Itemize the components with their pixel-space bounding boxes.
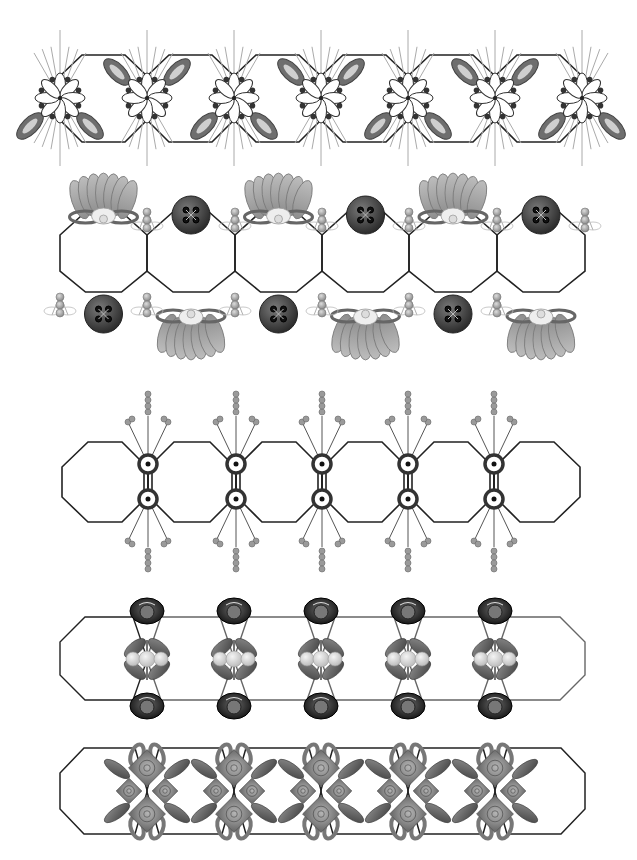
spray-bead xyxy=(389,416,395,422)
spray-bead xyxy=(233,548,239,554)
dot xyxy=(311,77,317,83)
line-flower-ornament xyxy=(447,30,542,166)
leaf xyxy=(363,756,394,782)
bead xyxy=(581,208,589,216)
decorative-border-sheet xyxy=(0,0,637,860)
rose-bud xyxy=(488,605,502,619)
rose-square xyxy=(390,750,427,787)
dot xyxy=(326,114,332,120)
rose-square xyxy=(303,796,340,833)
dot xyxy=(500,114,506,120)
bullseye-center xyxy=(320,497,325,502)
dot xyxy=(126,88,132,94)
spray-bead xyxy=(491,566,497,572)
gray-rose xyxy=(129,796,166,833)
bouquet-knot xyxy=(275,215,283,223)
border-row-1 xyxy=(12,30,629,166)
gray-rose xyxy=(203,778,228,803)
leaf xyxy=(162,800,193,826)
leaf xyxy=(276,756,307,782)
rose-square xyxy=(239,778,264,803)
rose-square xyxy=(464,778,489,803)
dot xyxy=(398,114,404,120)
spray-bead xyxy=(145,391,151,397)
bead-stack xyxy=(569,208,601,232)
dot xyxy=(413,77,419,83)
gray-rose xyxy=(303,750,340,787)
octagon-frame xyxy=(62,442,144,522)
bead xyxy=(318,216,326,224)
line-flower-ornament xyxy=(12,30,107,166)
dot xyxy=(413,114,419,120)
dot xyxy=(337,103,343,109)
bead xyxy=(143,224,151,232)
spray-bead xyxy=(475,416,481,422)
spray-bead xyxy=(491,391,497,397)
bouquet-knot xyxy=(449,215,457,223)
spray-bead xyxy=(405,554,411,560)
line-flower-ornament xyxy=(360,30,455,166)
spray-bead xyxy=(145,554,151,560)
rose-pearl-ornament xyxy=(208,598,260,719)
bouquet-knot xyxy=(187,310,195,318)
rose-bud xyxy=(401,700,415,714)
rose-bud xyxy=(314,605,328,619)
leaf xyxy=(249,800,280,826)
bead xyxy=(405,216,413,224)
spray-bead xyxy=(145,548,151,554)
gray-rose xyxy=(477,796,514,833)
bead xyxy=(405,301,413,309)
bullseye-center xyxy=(492,497,497,502)
spray-bead xyxy=(233,397,239,403)
octagon-frame xyxy=(326,442,404,522)
bullseye-node-pair xyxy=(213,391,259,572)
leaf xyxy=(423,756,454,782)
bouquet-knot xyxy=(537,310,545,318)
gray-rose xyxy=(239,778,264,803)
spray-bead xyxy=(319,397,325,403)
bead xyxy=(231,224,239,232)
bead xyxy=(56,309,64,317)
bouquet-knot xyxy=(100,215,108,223)
bullseye-center xyxy=(406,497,411,502)
dot xyxy=(39,88,45,94)
dot xyxy=(587,77,593,83)
leaf xyxy=(102,800,133,826)
bouquet xyxy=(503,309,578,360)
bullseye-node-pair xyxy=(299,391,345,572)
bead xyxy=(493,301,501,309)
rose-square xyxy=(152,778,177,803)
bullseye-center xyxy=(492,462,497,467)
leaf xyxy=(423,800,454,826)
gray-rose xyxy=(413,778,438,803)
bead xyxy=(318,224,326,232)
bullseye-center xyxy=(234,497,239,502)
gray-rose xyxy=(500,778,525,803)
gray-rose xyxy=(129,750,166,787)
leaf xyxy=(510,800,541,826)
gray-rose xyxy=(326,778,351,803)
dot xyxy=(387,88,393,94)
rose-bud xyxy=(401,605,415,619)
leaf xyxy=(249,756,280,782)
dot xyxy=(572,114,578,120)
dot xyxy=(598,103,604,109)
sewing-button xyxy=(172,196,210,234)
octagon-frame xyxy=(498,442,580,522)
dot xyxy=(65,114,71,120)
dot xyxy=(572,77,578,83)
bead xyxy=(231,309,239,317)
bouquet-knot xyxy=(362,310,370,318)
spray-bead xyxy=(507,416,513,422)
spray-bead xyxy=(491,397,497,403)
sewing-button xyxy=(347,196,385,234)
spray-bead xyxy=(303,416,309,422)
leaf xyxy=(450,800,481,826)
gray-rose xyxy=(216,796,253,833)
spray-bead xyxy=(145,397,151,403)
dot xyxy=(250,88,256,94)
dot xyxy=(239,114,245,120)
spray-bead xyxy=(129,416,135,422)
bullseye-node-pair xyxy=(125,391,171,572)
bouquet xyxy=(415,173,490,224)
